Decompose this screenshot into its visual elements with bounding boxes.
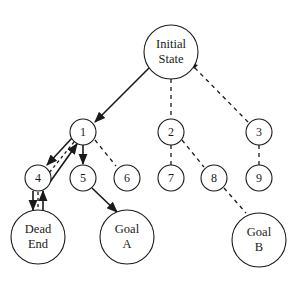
- node-label: Goal: [247, 225, 272, 239]
- node-7: 7: [158, 165, 184, 191]
- edge-8-to-goal-b: [224, 188, 246, 213]
- edges: [33, 63, 259, 213]
- node-label: B: [255, 240, 263, 254]
- edge-root-to-1: [95, 66, 151, 122]
- node-label: 9: [256, 171, 262, 185]
- node-5: 5: [70, 165, 96, 191]
- node-label: A: [122, 237, 131, 251]
- edge-1-4-dashed-track: [49, 142, 74, 173]
- node-4: 4: [25, 165, 51, 191]
- node-label: Initial: [156, 37, 186, 51]
- edge-5-to-goal-a: [92, 188, 117, 212]
- node-label: End: [28, 237, 49, 251]
- node-label: 7: [168, 171, 174, 185]
- node-initial-state: Initial State: [144, 25, 198, 79]
- node-1: 1: [70, 119, 96, 145]
- search-tree-diagram: Initial State 1 2 3 4 5 6 7 8 9 Dead En: [0, 0, 302, 283]
- node-label: 3: [256, 125, 262, 139]
- node-goal-b: Goal B: [232, 213, 286, 267]
- node-label: State: [159, 52, 184, 66]
- node-8: 8: [201, 165, 227, 191]
- node-label: 2: [168, 125, 174, 139]
- node-label: Goal: [115, 222, 140, 236]
- node-dead-end: Dead End: [11, 210, 65, 264]
- node-label: 5: [80, 171, 86, 185]
- node-label: 8: [211, 171, 217, 185]
- node-6: 6: [114, 165, 140, 191]
- node-label: 1: [80, 125, 86, 139]
- edge-1-to-6: [95, 140, 116, 166]
- node-9: 9: [246, 165, 272, 191]
- edge-1-to-4: [47, 138, 72, 165]
- node-2: 2: [158, 119, 184, 145]
- node-label: 4: [35, 171, 41, 185]
- node-goal-a: Goal A: [100, 210, 154, 264]
- node-3: 3: [246, 119, 272, 145]
- edge-root-to-3: [193, 66, 248, 122]
- edge-2-to-8: [182, 140, 204, 167]
- node-label: 6: [124, 171, 130, 185]
- node-label: Dead: [25, 222, 52, 236]
